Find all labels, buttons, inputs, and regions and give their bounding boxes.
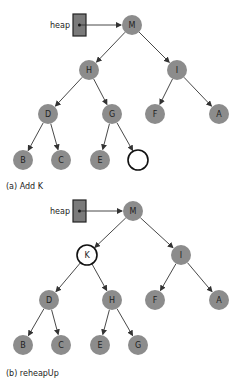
tree-node-D: D (39, 290, 59, 310)
tree-edge (161, 264, 176, 291)
tree-node-M: M (122, 15, 142, 35)
tree-node-H: H (102, 290, 122, 310)
tree-edge (139, 32, 169, 62)
node-label: A (216, 110, 222, 119)
tree-node-G: G (128, 335, 148, 355)
node-label: H (86, 66, 92, 75)
tree-node-B: B (13, 335, 33, 355)
node-label: B (20, 156, 26, 165)
panel-a-add-k: heapMHIDGFABCE (13, 14, 229, 170)
node-label: D (45, 110, 51, 119)
panel-b-reheapup: heapMKIDHFABCEG (13, 200, 229, 355)
tree-node-F: F (145, 290, 165, 310)
caption-b: (b) reheapUp (6, 369, 59, 378)
node-label: A (216, 296, 222, 305)
node-label: D (46, 296, 52, 305)
tree-node-A: A (209, 104, 229, 124)
tree-edge (56, 263, 80, 292)
tree-node-I: I (171, 245, 191, 265)
tree-edge (29, 309, 44, 336)
tree-node-C: C (51, 335, 71, 355)
tree-edge (55, 77, 82, 106)
node-label: C (58, 341, 64, 350)
tree-node-G: G (102, 104, 122, 124)
tree-node-M: M (123, 201, 143, 221)
tree-node-D: D (38, 104, 58, 124)
tree-edge (160, 79, 173, 104)
tree-edge (95, 218, 126, 247)
node-label: I (176, 66, 178, 75)
node-label: H (109, 296, 115, 305)
tree-node-A: A (209, 290, 229, 310)
node-label: E (97, 156, 102, 165)
tree-node-H: H (79, 60, 99, 80)
tree-edge (97, 32, 125, 62)
tree-edge (51, 124, 58, 150)
tree-edge (117, 123, 133, 151)
tree-edge (92, 264, 107, 291)
tree-edge (184, 77, 212, 106)
node-label: E (97, 341, 102, 350)
node-label: K (84, 251, 90, 260)
node-label: F (153, 296, 158, 305)
tree-node-F: F (145, 104, 165, 124)
tree-edge (28, 123, 43, 151)
tree-edge (187, 263, 211, 292)
tree-edge (140, 218, 173, 248)
tree-node-E: E (90, 335, 110, 355)
node-label: I (180, 251, 182, 260)
tree-node-B: B (13, 150, 33, 170)
tree-edge (52, 310, 59, 335)
tree-node-C: C (51, 150, 71, 170)
tree-node-I: I (167, 60, 187, 80)
node-label: M (130, 207, 137, 216)
node-label: C (58, 156, 64, 165)
node-label: B (20, 341, 26, 350)
heap-diagram: heapMHIDGFABCE heapMKIDHFABCEG (a) Add K… (0, 0, 242, 387)
node-label: F (153, 110, 158, 119)
node-label: G (109, 110, 115, 119)
caption-a: (a) Add K (6, 182, 44, 191)
tree-edge (94, 79, 107, 104)
tree-node-E: E (90, 150, 110, 170)
heap-label: heap (50, 21, 70, 30)
tree-edge (103, 310, 110, 335)
node-label: G (135, 341, 141, 350)
node-label: M (129, 21, 136, 30)
tree-node-empty (128, 150, 148, 170)
heap-label: heap (50, 207, 70, 216)
tree-node-K: K (77, 245, 97, 265)
tree-edge (103, 124, 110, 150)
tree-edge (117, 309, 132, 336)
